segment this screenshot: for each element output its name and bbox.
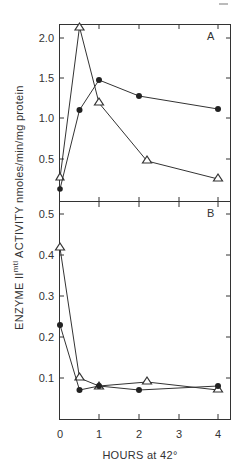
series-b-triangles-line	[60, 248, 218, 390]
y-axis-title-main: ENZYME II	[13, 272, 25, 330]
panel-a-frame	[60, 25, 231, 202]
panel-a-x-ticks	[99, 24, 218, 207]
panel-b-y-ticks	[59, 214, 231, 378]
x-tick-label: 3	[176, 428, 182, 440]
panel-b: 0.5 0.4 0.3 0.2 0.1 B	[39, 202, 231, 420]
series-b-triangles-markers	[56, 243, 223, 392]
x-tick-label: 1	[96, 428, 102, 440]
figure: 2.0 1.5 1.0 0.5 A	[0, 0, 241, 476]
series-a-circles-markers	[57, 77, 221, 192]
panel-b-x-ticks	[99, 414, 218, 419]
y-tick-label: 0.4	[39, 249, 54, 261]
y-axis-title-rest: ACTIVITY nmoles/min/mg protein	[13, 85, 25, 260]
x-tick-label: 2	[136, 428, 142, 440]
y-tick-label: 2.0	[39, 32, 54, 44]
x-tick-label: 0	[57, 428, 63, 440]
y-tick-label: 0.5	[39, 153, 54, 165]
y-axis-superscript: mtl	[11, 261, 20, 273]
y-tick-label: 0.1	[39, 372, 54, 384]
panel-a-label: A	[207, 30, 215, 42]
x-tick-label: 4	[215, 428, 221, 440]
y-tick-label: 0.2	[39, 331, 54, 343]
x-axis-title: HOURS at 42°	[102, 449, 177, 461]
y-tick-label: 1.0	[39, 112, 54, 124]
panel-a: 2.0 1.5 1.0 0.5 A	[39, 23, 231, 207]
y-axis-title: ENZYME IImtl ACTIVITY nmoles/min/mg prot…	[11, 85, 25, 330]
y-tick-label: 0.5	[39, 208, 54, 220]
page-number-fragment	[219, 3, 228, 5]
panel-b-label: B	[207, 207, 214, 219]
series-a-triangles-markers	[56, 23, 223, 181]
y-tick-label: 0.3	[39, 290, 54, 302]
y-tick-label: 1.5	[39, 72, 54, 84]
panel-a-y-ticks	[59, 38, 231, 159]
